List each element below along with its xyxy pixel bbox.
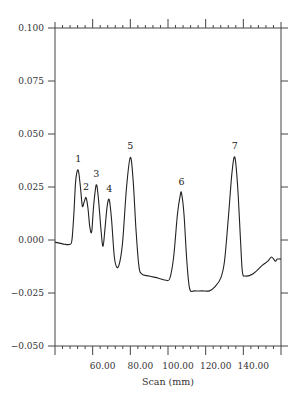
peak-label-3: 3 [93,168,99,179]
x-tick-label: 120.00 [200,361,232,371]
x-axis-title: Scan (mm) [142,376,194,387]
peak-annotations: 1234567 [75,140,238,193]
y-tick-label: 0.000 [18,235,44,245]
chromatogram-chart: 60.0080.00100.00120.00140.000.1000.0750.… [0,0,301,396]
peak-label-4: 4 [106,183,112,194]
series [55,157,281,292]
y-tick-label: −0.025 [11,288,45,298]
y-tick-label: 0.050 [18,129,44,139]
x-tick-label: 60.00 [90,361,116,371]
y-tick-label: 0.025 [18,182,44,192]
y-tick-label: −0.050 [11,341,45,351]
x-tick-label: 100.00 [162,361,194,371]
x-tick-label: 140.00 [238,361,270,371]
series-line-scan [55,157,281,292]
peak-label-1: 1 [75,153,81,164]
x-tick-label: 80.00 [127,361,153,371]
peak-label-7: 7 [232,140,238,151]
peak-label-5: 5 [127,140,133,151]
y-tick-label: 0.075 [18,76,44,86]
tick-labels: 60.0080.00100.00120.00140.000.1000.0750.… [11,23,270,371]
peak-label-6: 6 [179,176,185,187]
y-tick-label: 0.100 [18,23,44,33]
peak-label-2: 2 [83,181,89,192]
